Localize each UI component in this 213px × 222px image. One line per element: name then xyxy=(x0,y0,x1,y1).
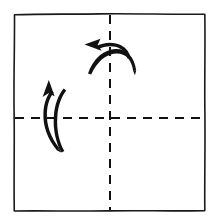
fold-diagram xyxy=(0,0,213,222)
fold-diagram-container: Paper folding step diagram Square sheet … xyxy=(0,0,213,222)
